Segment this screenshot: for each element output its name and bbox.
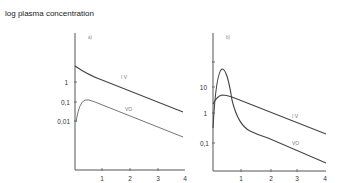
x-tick-label: 3 (295, 175, 299, 182)
iv-curve-label: I V (292, 113, 299, 119)
y-tick-label: 0,01 (57, 118, 70, 125)
y-tick-label: 1 (64, 79, 68, 86)
iv-curve-label: I V (121, 74, 128, 80)
x-tick-label: 2 (128, 175, 132, 182)
chart-canvas: a) 1 0,1 0,01 1 2 3 4 I V VO b) 10 1 0 (0, 0, 356, 183)
y-tick-label: 10 (200, 84, 208, 91)
x-tick-label: 3 (156, 175, 160, 182)
x-tick-label: 1 (239, 175, 243, 182)
x-tick-label: 4 (183, 175, 187, 182)
panel-label: a) (88, 35, 93, 40)
vo-curve-label: VO (292, 140, 299, 146)
panel-label: b) (226, 35, 231, 40)
vo-curve (213, 69, 326, 163)
vo-curve-label: VO (125, 106, 132, 112)
x-tick-label: 1 (100, 175, 104, 182)
y-tick-label: 0,1 (61, 99, 70, 106)
panel-a: a) 1 0,1 0,01 1 2 3 4 I V VO (57, 33, 187, 182)
panel-b: b) 10 1 0,1 1 2 3 4 I V VO (200, 33, 327, 182)
y-tick-label: 0,1 (200, 140, 209, 147)
x-tick-label: 4 (323, 175, 327, 182)
x-tick-label: 2 (269, 175, 273, 182)
y-tick-label: 1 (203, 110, 207, 117)
iv-curve (213, 95, 326, 134)
